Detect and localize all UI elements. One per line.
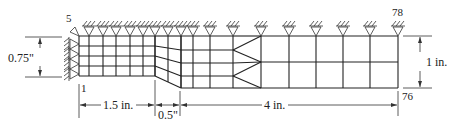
pin-support-icon [64, 67, 79, 81]
mesh-fan-line [233, 62, 261, 63]
pin-support-icon [64, 47, 79, 61]
mesh-grid [79, 36, 398, 88]
dim-length-3-label: 4 in. [264, 98, 285, 112]
mesh-fan-line [233, 62, 261, 76]
dim-left-height-label: 0.75" [8, 51, 34, 65]
roller-support-icon [203, 21, 217, 36]
mesh-fan-line [233, 50, 261, 62]
roller-support-icon [186, 21, 200, 36]
roller-support-icon [363, 21, 377, 36]
roller-support-icon [161, 21, 175, 36]
dim-length-2-label: 0.5" [158, 108, 178, 122]
roller-support-icon [254, 21, 268, 36]
dimension-lines [25, 36, 432, 118]
node-label-bottom-left: 1 [81, 82, 87, 94]
roller-support-icon [96, 21, 110, 36]
pin-support-icon [64, 57, 79, 71]
roller-support-icon [109, 21, 123, 36]
roller-support-icon [282, 21, 296, 36]
node-label-top-right: 78 [392, 6, 404, 18]
roller-support-icon [136, 21, 150, 36]
corner-support-icon [70, 27, 79, 36]
dim-right-height-label: 1 in. [426, 55, 447, 69]
roller-support-icon [82, 21, 96, 36]
roller-support-icon [226, 21, 240, 36]
roller-support-icon [309, 21, 323, 36]
roller-support-icon [336, 21, 350, 36]
pin-support-icon [64, 37, 79, 51]
node-label-bottom-right: 76 [402, 90, 414, 102]
dim-length-1-label: 1.5 in. [103, 98, 133, 112]
roller-support-icon [174, 21, 188, 36]
roller-support-icon [123, 21, 137, 36]
roller-support-icon [148, 21, 162, 36]
finite-element-mesh-diagram: 0.75" 1 in. 1.5 in. 0.5" 4 in. 5 1 78 76 [0, 0, 454, 125]
mesh-fan-line [233, 76, 261, 88]
mesh-fan-line [233, 36, 261, 50]
node-label-top-left: 5 [66, 12, 72, 24]
roller-support-icon [391, 21, 405, 36]
